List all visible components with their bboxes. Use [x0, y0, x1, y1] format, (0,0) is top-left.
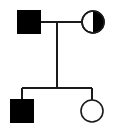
pedigree-diagram: Pedigree chart — [0, 0, 117, 129]
individual-II-1-affected-male-square[interactable] — [11, 100, 33, 122]
individual-I-1-affected-male-square[interactable] — [18, 11, 40, 33]
pedigree-svg — [0, 0, 117, 129]
individual-II-2-unaffected-female-circle[interactable] — [81, 100, 103, 122]
generation-2-group — [11, 100, 103, 122]
individual-I-2-carrier-female-circle[interactable] — [82, 11, 104, 33]
